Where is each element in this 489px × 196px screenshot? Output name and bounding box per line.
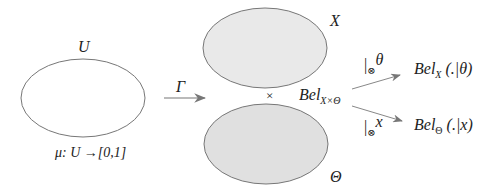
joint-belief-subscript: X×Θ: [320, 95, 340, 106]
result-bel-theta-subscript: Θ: [435, 125, 442, 136]
result-bel-theta-arg: (.|x): [443, 116, 473, 133]
otimes-symbol: ⊗: [367, 127, 375, 138]
conditioning-x-label: |⊗x: [364, 118, 383, 136]
frame-x-label: X: [330, 12, 340, 30]
result-bel-x-label: BelX (.|θ): [414, 60, 472, 78]
diagram-canvas: [0, 0, 489, 196]
otimes-symbol: ⊗: [367, 65, 375, 76]
frame-x-ellipse: [203, 8, 327, 88]
result-bel-x-arg: (.|θ): [441, 60, 472, 77]
joint-belief-label: BelX×Θ: [299, 86, 340, 104]
result-bel-theta-base: Bel: [414, 116, 435, 133]
universe-ellipse: [21, 59, 145, 137]
frame-theta-label: Θ: [330, 168, 342, 186]
conditioning-variable: θ: [376, 51, 384, 68]
result-bel-x-base: Bel: [414, 60, 435, 77]
result-bel-theta-label: BelΘ (.|x): [414, 116, 473, 134]
conditioning-variable: x: [376, 113, 383, 130]
universe-label: U: [78, 38, 90, 56]
gamma-label: Γ: [176, 78, 185, 96]
conditioning-theta-label: |⊗θ: [364, 56, 383, 74]
joint-belief-base: Bel: [299, 86, 320, 103]
arrow-to-bel-x: [352, 75, 400, 89]
product-symbol: ×: [266, 88, 273, 104]
frame-theta-ellipse: [204, 104, 328, 184]
result-bel-x-subscript: X: [435, 69, 441, 80]
measure-label: μ: U →[0,1]: [55, 145, 126, 161]
